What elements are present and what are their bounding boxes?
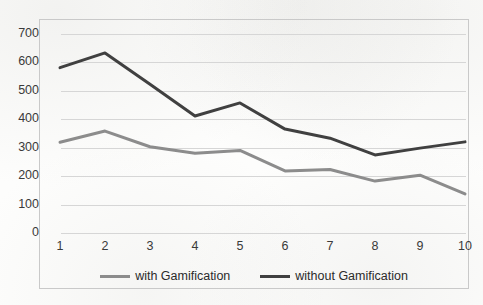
legend-line-swatch (100, 275, 130, 278)
legend: with Gamificationwithout Gamification (39, 265, 469, 287)
legend-item[interactable]: without Gamification (260, 270, 408, 283)
legend-item[interactable]: with Gamification (100, 270, 230, 283)
legend-line-swatch (260, 275, 290, 278)
line-chart: 0100200300400500600700 12345678910 with … (0, 0, 483, 305)
legend-label: with Gamification (135, 270, 230, 283)
series-line (60, 53, 465, 155)
legend-label: without Gamification (295, 270, 408, 283)
series-layer (0, 0, 483, 305)
series-line (60, 131, 465, 194)
series-paths-group (60, 53, 465, 194)
